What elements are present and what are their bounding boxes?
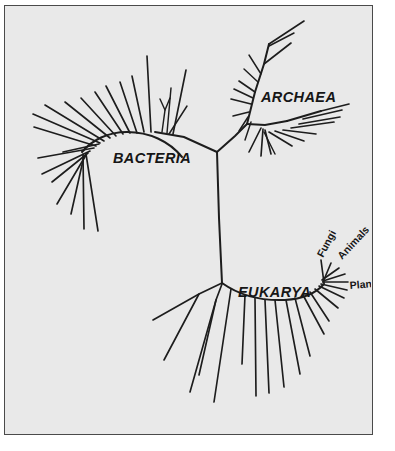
archaea-branch-u4	[249, 55, 261, 74]
bacteria-branch-5	[147, 56, 151, 132]
archaea-branch-l5	[283, 130, 316, 134]
archaea-branch-u7	[234, 89, 253, 98]
label-archaea: ARCHAEA	[260, 89, 336, 105]
eukarya-branch-5	[214, 289, 231, 402]
eukarya-branch-9	[275, 300, 284, 387]
bacteria-branch-21	[83, 154, 84, 229]
label-bacteria: BACTERIA	[113, 150, 191, 166]
phylogenetic-tree-svg: BACTERIA ARCHAEA EUKARYA Fungi Animals P…	[5, 6, 371, 433]
label-eukarya: EUKARYA	[238, 284, 311, 300]
figure-page: BACTERIA ARCHAEA EUKARYA Fungi Animals P…	[0, 0, 395, 451]
bacteria-branch-11	[65, 102, 110, 138]
eukarya-branch-12	[303, 295, 324, 334]
trunk-group	[155, 124, 247, 283]
eukarya-branch-6	[242, 295, 245, 364]
trunk-vertical	[217, 152, 222, 283]
archaea-branch-l7	[269, 132, 292, 146]
eukarya-branch-4	[190, 300, 216, 392]
archaea-backbone-lower	[247, 121, 287, 125]
eukarya-branch-13	[310, 292, 329, 321]
archaea-branch-u6	[239, 81, 255, 92]
bacteria-branch-4-fork-a	[160, 99, 165, 132]
eukarya-clade	[153, 260, 348, 402]
archaea-branch-u5	[244, 69, 258, 82]
figure-frame: BACTERIA ARCHAEA EUKARYA Fungi Animals P…	[4, 5, 373, 435]
archaea-branch-u2	[269, 21, 304, 44]
bacteria-branch-2	[167, 88, 171, 133]
bacteria-branch-22	[86, 154, 98, 231]
bacteria-branch-19	[57, 155, 86, 204]
archaea-branch-u9	[233, 112, 249, 116]
archaea-branch-l4	[291, 122, 334, 128]
trunk-to-archaea	[217, 124, 247, 152]
eukarya-branch-3	[199, 284, 222, 375]
archaea-branch-l1	[321, 104, 349, 111]
archaea-branch-l11	[249, 128, 261, 152]
bacteria-clade	[33, 56, 187, 231]
eukarya-branch-8	[265, 300, 269, 393]
archaea-branch-l9	[261, 129, 263, 156]
label-animals: Animals	[335, 223, 371, 261]
label-plants: Plants	[349, 276, 371, 291]
archaea-branch-u8	[231, 99, 251, 104]
eukarya-branch-11	[295, 298, 310, 356]
eukarya-branch-7	[255, 298, 256, 396]
